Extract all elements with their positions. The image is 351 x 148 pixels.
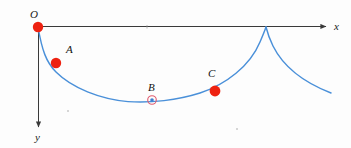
point-c-label: C: [208, 68, 215, 79]
point-b-marker: [150, 98, 154, 102]
cycloid-figure: O x y A B C: [0, 0, 351, 148]
point-b-label: B: [148, 82, 155, 93]
figure-canvas: [0, 0, 351, 148]
point-a-label: A: [66, 44, 73, 55]
point-a-marker: [51, 58, 61, 68]
paper-speck: [67, 110, 69, 112]
x-axis-label: x: [334, 21, 339, 32]
paper-speck: [236, 128, 238, 130]
cycloid-curve-second-arch: [266, 27, 331, 93]
origin-label: O: [30, 9, 38, 20]
point-c-marker: [210, 86, 221, 97]
point-o-marker: [33, 22, 43, 32]
y-axis-label: y: [35, 132, 40, 143]
